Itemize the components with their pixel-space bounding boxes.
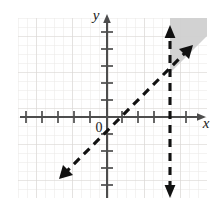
graph-canvas: x y 0 <box>0 0 223 210</box>
y-axis-label: y <box>91 7 100 23</box>
origin-label: 0 <box>96 120 103 135</box>
coordinate-plane-figure: x y 0 <box>0 0 223 210</box>
x-axis-label: x <box>202 115 210 131</box>
